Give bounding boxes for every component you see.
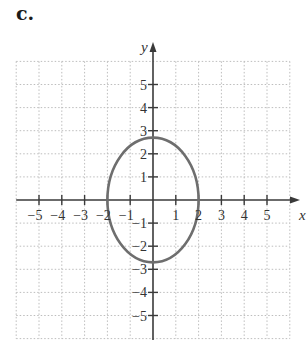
y-axis-label: y — [139, 39, 148, 55]
x-axis-arrow-icon — [290, 197, 300, 204]
y-axis-arrow-icon — [150, 42, 157, 52]
x-tick-label: −2 — [96, 208, 111, 223]
x-tick-label: −5 — [28, 208, 43, 223]
y-tick-label: −3 — [132, 262, 147, 277]
x-tick-label: 4 — [241, 208, 248, 223]
y-tick-label: 5 — [140, 78, 147, 93]
y-tick-label: 3 — [140, 124, 147, 139]
x-tick-label: −4 — [50, 208, 65, 223]
x-tick-label: −3 — [73, 208, 88, 223]
y-tick-label: −4 — [132, 285, 147, 300]
y-tick-label: −5 — [132, 309, 147, 324]
y-tick-label: −1 — [132, 216, 147, 231]
axes — [16, 42, 300, 340]
y-tick-label: 1 — [140, 170, 147, 185]
x-tick-label: 2 — [195, 208, 202, 223]
x-tick-label: 5 — [264, 208, 271, 223]
y-tick-label: 2 — [140, 147, 147, 162]
y-tick-label: 4 — [140, 101, 147, 116]
x-tick-label: 1 — [172, 208, 179, 223]
coordinate-plane: −5−4−3−2−112345−5−4−3−2−112345xy — [0, 0, 308, 349]
y-tick-label: −2 — [132, 239, 147, 254]
x-tick-label: 3 — [218, 208, 225, 223]
tick-labels: −5−4−3−2−112345−5−4−3−2−112345xy — [28, 39, 306, 324]
x-axis-label: x — [298, 207, 306, 223]
